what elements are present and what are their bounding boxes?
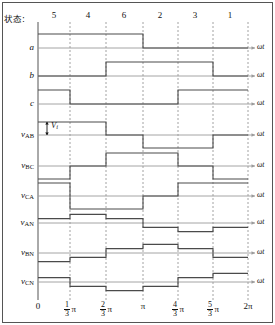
state-number-3: 3 xyxy=(187,10,203,20)
signal-label-subscript: AB xyxy=(25,132,34,139)
signal-label-v-cn: vCN xyxy=(2,276,34,286)
signal-label-text: b xyxy=(30,70,35,80)
omega-t-label: ωt xyxy=(257,190,264,199)
signal-label-c: c xyxy=(2,98,34,108)
pi-symbol: π xyxy=(179,304,184,314)
omega-t-label: ωt xyxy=(257,247,264,256)
fraction-numerator: 5 xyxy=(207,301,213,309)
vi-label-subscript: i xyxy=(56,123,58,130)
timing-diagram xyxy=(0,0,275,325)
fraction: 23 xyxy=(100,301,106,318)
omega-t-label: ωt xyxy=(257,70,264,79)
signal-label-v-bn: vBN xyxy=(2,247,34,257)
fraction-numerator: 2 xyxy=(100,301,106,309)
signal-label-subscript: AN xyxy=(25,220,34,227)
fraction: 53 xyxy=(207,301,213,318)
x-tick-label: 0 xyxy=(24,301,52,311)
state-number-5: 5 xyxy=(46,10,62,20)
signal-label-b: b xyxy=(2,70,34,80)
fraction-numerator: 1 xyxy=(64,301,70,309)
omega-t-label: ωt xyxy=(257,217,264,226)
pi-symbol: π xyxy=(71,304,76,314)
omega-t-label: ωt xyxy=(257,129,264,138)
fraction-denominator: 3 xyxy=(172,309,178,318)
signal-label-v-bc: vBC xyxy=(2,160,34,170)
signal-label-v-an: vAN xyxy=(2,217,34,227)
fraction-denominator: 3 xyxy=(207,309,213,318)
x-tick-label: π xyxy=(129,301,157,311)
pi-symbol: π xyxy=(214,304,219,314)
omega-t-label: ωt xyxy=(257,160,264,169)
signal-label-subscript: CA xyxy=(25,193,34,200)
signal-label-v-ab: vAB xyxy=(2,129,34,139)
state-number-6: 6 xyxy=(116,10,132,20)
x-tick-label: 53π xyxy=(199,301,227,318)
omega-t-label: ωt xyxy=(257,42,264,51)
fraction-numerator: 4 xyxy=(172,301,178,309)
signal-label-subscript: BC xyxy=(25,163,34,170)
signal-label-a: a xyxy=(2,42,34,52)
state-number-2: 2 xyxy=(152,10,168,20)
signal-label-subscript: BN xyxy=(25,250,34,257)
signal-label-subscript: CN xyxy=(25,279,34,286)
fraction-denominator: 3 xyxy=(64,309,70,318)
pi-symbol: π xyxy=(107,304,112,314)
state-number-1: 1 xyxy=(222,10,238,20)
state-number-4: 4 xyxy=(80,10,96,20)
signal-label-text: a xyxy=(30,42,35,52)
omega-t-label: ωt xyxy=(257,98,264,107)
vi-annotation-label: Vi xyxy=(51,120,58,130)
fraction: 13 xyxy=(64,301,70,318)
signal-label-v-ca: vCA xyxy=(2,190,34,200)
signal-label-text: c xyxy=(30,98,34,108)
x-tick-label: 2π xyxy=(234,301,262,311)
fraction-denominator: 3 xyxy=(100,309,106,318)
x-tick-label: 13π xyxy=(56,301,84,318)
fraction: 43 xyxy=(172,301,178,318)
omega-t-label: ωt xyxy=(257,276,264,285)
x-tick-label: 23π xyxy=(92,301,120,318)
x-tick-label: 43π xyxy=(164,301,192,318)
